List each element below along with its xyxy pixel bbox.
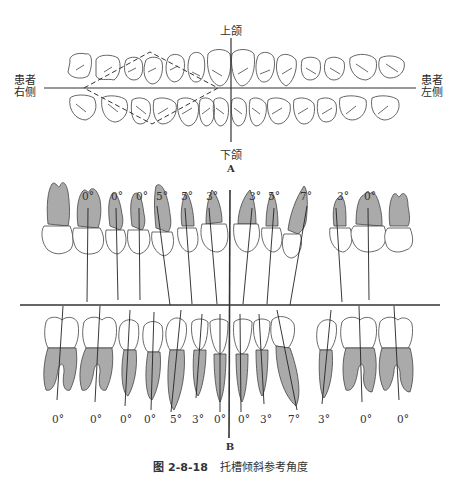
upper-angle-label: 0°	[82, 190, 94, 202]
upper-angle-label: 0°	[111, 190, 123, 202]
lower-angle-label: 3°	[260, 413, 272, 425]
lower-arch-teeth	[70, 95, 399, 126]
lower-angle-label: 0°	[144, 413, 156, 425]
lower-angle-label: 0°	[214, 413, 226, 425]
lower-angle-label: 0°	[238, 413, 250, 425]
panel-b-vertical-axis	[229, 190, 230, 438]
dental-diagram	[0, 0, 461, 480]
panel-b-upper-teeth	[42, 183, 413, 258]
lower-angle-label: 3°	[318, 413, 330, 425]
lower-angle-label: 0°	[90, 413, 102, 425]
figure-caption: 图 2-8-18托槽倾斜参考角度	[0, 458, 461, 474]
lower-angle-label: 5°	[170, 413, 182, 425]
upper-angle-label: 3°	[206, 190, 218, 202]
panel-a-label: A	[227, 163, 235, 174]
lower-angle-label: 0°	[52, 413, 64, 425]
upper-angle-label: 7°	[300, 190, 312, 202]
figure-title: 托槽倾斜参考角度	[220, 461, 308, 474]
upper-angle-label: 3°	[249, 190, 261, 202]
upper-angle-label: 5°	[156, 190, 168, 202]
figure-number: 图 2-8-18	[153, 461, 208, 474]
upper-arch-teeth	[68, 50, 404, 87]
upper-angle-label: 0°	[364, 190, 376, 202]
panel-b-label: B	[226, 441, 234, 452]
mandible-label: 下颌	[220, 146, 242, 162]
lower-angle-label: 0°	[120, 413, 132, 425]
lower-angle-label: 0°	[397, 413, 409, 425]
patient-left-side-label: 患者 左侧	[421, 75, 443, 99]
upper-angle-label: 5°	[268, 190, 280, 202]
maxilla-label: 上颌	[220, 22, 242, 38]
upper-angle-label: 3°	[337, 190, 349, 202]
panel-b-upper-axis-lines	[87, 206, 369, 305]
upper-angle-label: 5°	[181, 190, 193, 202]
lower-angle-label: 7°	[288, 413, 300, 425]
upper-angle-label: 0°	[136, 190, 148, 202]
bracket-slot-marks	[76, 64, 398, 114]
lower-angle-label: 0°	[360, 413, 372, 425]
lower-angle-label: 3°	[192, 413, 204, 425]
patient-right-side-label: 患者 右侧	[14, 75, 36, 99]
